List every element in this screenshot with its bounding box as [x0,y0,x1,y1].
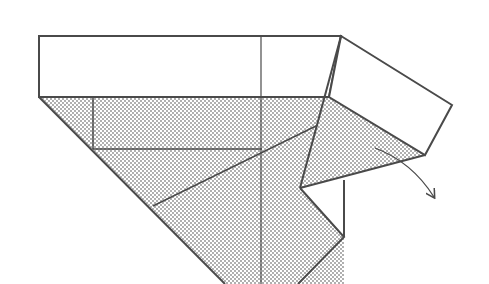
diagram-canvas [0,0,489,284]
top-band [39,36,341,97]
origami-diagram [0,0,489,284]
shaded-body [39,97,344,284]
